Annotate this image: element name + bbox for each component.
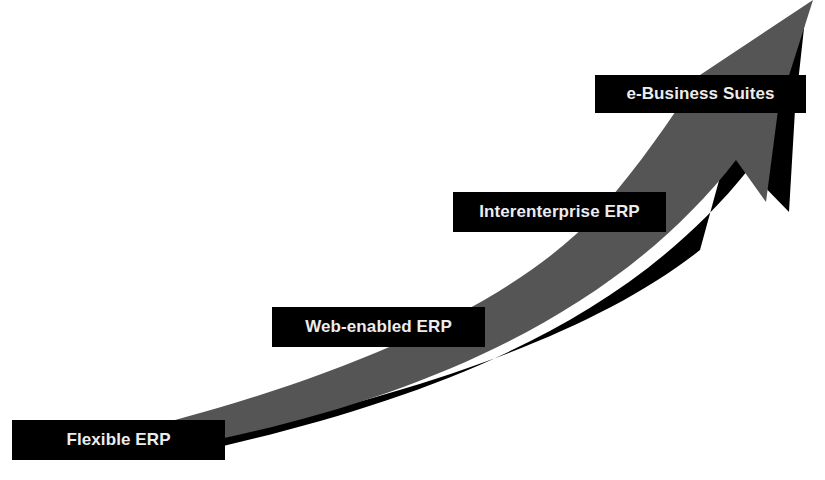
stage-label-web-enabled-erp: Web-enabled ERP (272, 307, 485, 347)
stage-text: Flexible ERP (66, 430, 170, 450)
stage-label-interenterprise-erp: Interenterprise ERP (453, 192, 666, 232)
stage-label-flexible-erp: Flexible ERP (12, 420, 225, 460)
stage-label-e-business-suites: e-Business Suites (595, 75, 806, 113)
stage-text: e-Business Suites (626, 84, 774, 104)
progression-arrow-icon (0, 0, 825, 480)
stage-text: Interenterprise ERP (479, 202, 640, 222)
stage-text: Web-enabled ERP (305, 317, 452, 337)
